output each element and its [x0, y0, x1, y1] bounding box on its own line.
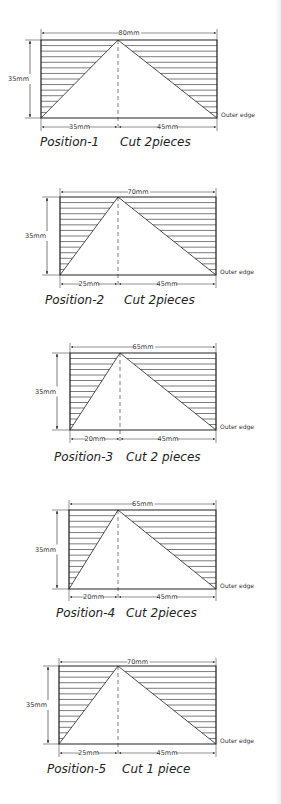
- cut-count-caption: Cut 2pieces: [126, 606, 197, 620]
- extension-lines: [42, 188, 216, 288]
- cut-count-caption: Cut 2pieces: [120, 135, 191, 149]
- right-width-label: 45mm: [158, 435, 179, 443]
- cut-count-caption: Cut 1 piece: [122, 762, 190, 776]
- right-width-label: 45mm: [157, 123, 178, 131]
- position-caption: Position-1: [40, 135, 99, 149]
- total-width-label: 65mm: [132, 500, 153, 508]
- height-label: 35mm: [26, 701, 47, 709]
- position-5-diagram: 70mm25mm45mm35mmOuter edgePosition-5Cut …: [23, 658, 254, 776]
- height-label: 35mm: [8, 75, 29, 83]
- position-caption: Position-2: [45, 293, 104, 307]
- outer-edge-label: Outer edge: [221, 111, 255, 119]
- left-width-label: 25mm: [78, 749, 99, 757]
- total-width-label: 70mm: [127, 658, 148, 666]
- extension-lines: [25, 29, 217, 131]
- position-caption: Position-4: [56, 606, 115, 620]
- total-width-label: 65mm: [133, 343, 154, 351]
- left-width-label: 20mm: [83, 593, 104, 601]
- cut-count-caption: Cut 2pieces: [124, 293, 195, 307]
- extension-lines: [52, 343, 216, 443]
- left-width-label: 20mm: [85, 435, 106, 443]
- outer-edge-label: Outer edge: [220, 737, 254, 745]
- position-3-diagram: 65mm20mm45mm35mmOuter edgePosition-3Cut …: [32, 343, 254, 464]
- total-width-label: 70mm: [128, 188, 149, 196]
- extension-lines: [52, 500, 216, 601]
- position-2-diagram: 70mm25mm45mm35mmOuter edgePosition-2Cut …: [22, 188, 254, 307]
- hatch-lines: [70, 359, 216, 425]
- cut-count-caption: Cut 2 pieces: [126, 450, 201, 464]
- left-width-label: 25mm: [79, 280, 100, 288]
- height-label: 35mm: [25, 232, 46, 240]
- height-label: 35mm: [35, 388, 56, 396]
- position-4-diagram: 65mm20mm45mm35mmOuter edgePosition-4Cut …: [32, 500, 254, 620]
- left-width-label: 35mm: [69, 123, 90, 131]
- extension-lines: [43, 658, 216, 757]
- total-width-label: 80mm: [119, 29, 140, 37]
- height-label: 35mm: [35, 546, 56, 554]
- outer-edge-label: Outer edge: [220, 423, 254, 431]
- position-1-diagram: 80mm35mm45mm35mmOuter edgePosition-1Cut …: [5, 29, 255, 149]
- hatch-lines: [69, 516, 216, 584]
- hatch-lines: [41, 46, 217, 113]
- position-caption: Position-3: [54, 450, 113, 464]
- outer-edge-label: Outer edge: [220, 582, 254, 590]
- right-width-label: 45mm: [157, 593, 178, 601]
- right-width-label: 45mm: [157, 749, 178, 757]
- position-caption: Position-5: [47, 762, 106, 776]
- outer-edge-label: Outer edge: [220, 268, 254, 276]
- right-width-label: 45mm: [157, 280, 178, 288]
- cutting-diagram-sheet: 80mm35mm45mm35mmOuter edgePosition-1Cut …: [0, 0, 281, 804]
